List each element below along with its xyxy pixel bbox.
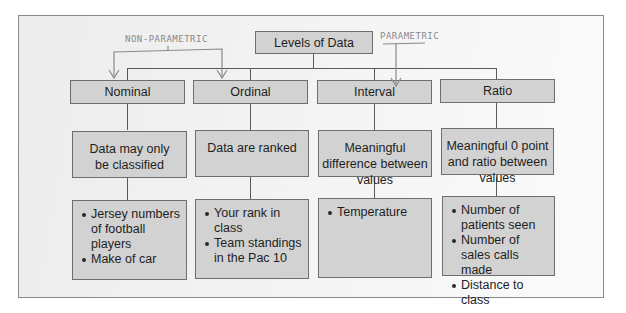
non-parametric-annotation: NON-PARAMETRIC — [125, 34, 208, 44]
parametric-arrow-icon — [383, 43, 425, 86]
handwritten-annotations: NON-PARAMETRIC PARAMETRIC — [0, 0, 626, 313]
non-parametric-bracket-icon — [109, 46, 227, 78]
parametric-annotation: PARAMETRIC — [380, 31, 439, 41]
